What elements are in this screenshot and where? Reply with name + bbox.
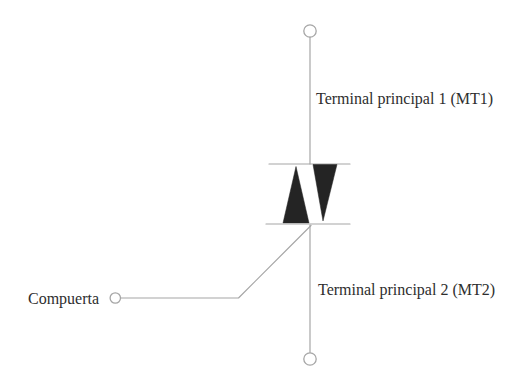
gate-lead-line xyxy=(121,226,312,299)
triac-schematic-diagram: Terminal principal 1 (MT1) Terminal prin… xyxy=(0,0,526,387)
mt1-terminal-circle xyxy=(304,25,316,37)
terminal1-label: Terminal principal 1 (MT1) xyxy=(316,90,493,108)
schematic-canvas: Terminal principal 1 (MT1) Terminal prin… xyxy=(0,0,526,387)
gate-label: Compuerta xyxy=(28,290,99,308)
triac-right-triangle xyxy=(313,165,337,222)
triac-left-triangle xyxy=(283,167,309,224)
terminal2-label: Terminal principal 2 (MT2) xyxy=(318,281,495,299)
gate-terminal-circle xyxy=(110,293,120,303)
mt2-terminal-circle xyxy=(304,353,316,365)
